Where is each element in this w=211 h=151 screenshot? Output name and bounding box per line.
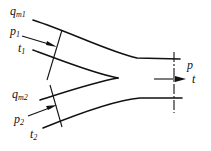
qm2-subscript: m2 [18,93,28,102]
label-qm2: qm2 [12,88,28,102]
label-t2: t2 [30,128,37,142]
label-p-outlet: p [187,59,193,71]
upper-inner-wall [33,50,118,78]
section-1-line [47,30,62,80]
p2-subscript: 2 [20,118,24,127]
label-t-outlet: t [192,73,195,85]
p2-arrow-icon [46,105,57,110]
t2-subscript: 2 [33,133,37,142]
label-p1: p1 [10,25,20,39]
lower-outer-wall [43,98,182,128]
label-qm1: qm1 [10,5,26,19]
label-p2: p2 [14,113,24,127]
t1-subscript: 1 [21,47,25,56]
qm1-subscript: m1 [16,10,26,19]
t-arrow-icon [175,76,186,82]
p1-subscript: 1 [16,30,20,39]
p1-arrow-icon [46,41,57,47]
label-t1: t1 [18,42,25,56]
mixing-diagram: qm1 p1 t1 qm2 p2 t2 p t [0,0,211,151]
